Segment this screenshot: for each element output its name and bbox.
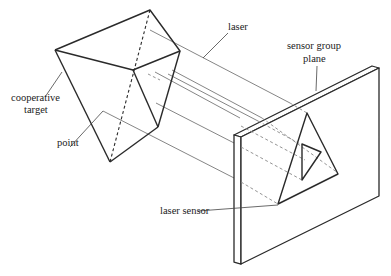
label-laser: laser	[228, 21, 248, 32]
label-sensor-group-plane-2: plane	[303, 53, 326, 64]
label-point: point	[57, 137, 79, 148]
laser-measurement-diagram: laser sensor group plane cooperative tar…	[0, 0, 391, 276]
label-cooperative-target-1: cooperative	[11, 92, 60, 103]
label-sensor-group-plane-1: sensor group	[287, 40, 341, 51]
label-cooperative-target-2: target	[24, 104, 48, 115]
sensor-group-plane	[234, 66, 379, 264]
label-laser-sensor: laser sensor	[160, 205, 210, 216]
